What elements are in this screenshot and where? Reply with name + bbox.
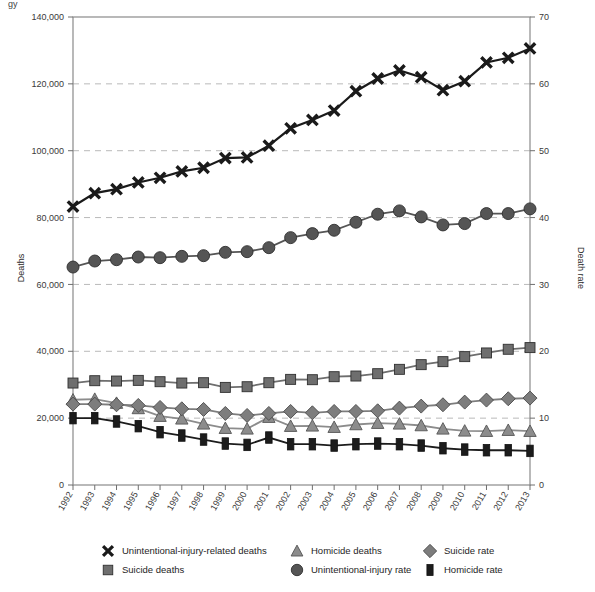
square-marker-icon xyxy=(90,376,100,386)
square-marker-icon xyxy=(177,378,187,388)
circle-marker-icon xyxy=(502,208,514,220)
square-marker-icon xyxy=(460,352,470,362)
circle-marker-icon xyxy=(111,254,123,266)
circle-marker-icon xyxy=(328,224,340,236)
circle-marker-icon xyxy=(154,252,166,264)
clipped-figure-title: gy xyxy=(8,0,18,9)
bar-marker-icon xyxy=(92,412,99,424)
square-marker-icon xyxy=(133,375,143,385)
square-marker-icon xyxy=(416,360,426,370)
bar-marker-icon xyxy=(331,440,338,452)
right-axis-tick-label: 30 xyxy=(539,280,549,290)
circle-marker-icon xyxy=(219,246,231,258)
circle-marker-icon xyxy=(198,250,210,262)
square-marker-icon xyxy=(242,382,252,392)
circle-marker-icon xyxy=(176,250,188,262)
bar-marker-icon xyxy=(461,444,468,456)
left-axis-tick-label: 20,000 xyxy=(36,413,64,423)
bar-marker-icon xyxy=(374,438,381,450)
bar-marker-icon xyxy=(200,434,207,446)
square-marker-icon xyxy=(68,378,78,388)
right-axis-tick-label: 70 xyxy=(539,12,549,22)
square-marker-icon xyxy=(438,357,448,367)
right-axis-title: Death rate xyxy=(576,247,586,289)
circle-marker-icon xyxy=(291,564,302,575)
square-marker-icon xyxy=(155,377,165,387)
circle-marker-icon xyxy=(393,205,405,217)
bar-marker-icon xyxy=(309,438,316,450)
circle-marker-icon xyxy=(372,208,384,220)
bar-marker-icon xyxy=(135,420,142,432)
right-axis-tick-label: 10 xyxy=(539,413,549,423)
legend-item-label: Homicide rate xyxy=(444,564,503,575)
left-axis-tick-label: 60,000 xyxy=(36,280,64,290)
right-axis-tick-label: 0 xyxy=(539,480,544,490)
circle-marker-icon xyxy=(89,255,101,267)
legend-item-label: Homicide deaths xyxy=(311,545,382,556)
circle-marker-icon xyxy=(241,246,253,258)
left-axis-title: Deaths xyxy=(16,253,26,282)
circle-marker-icon xyxy=(437,219,449,231)
line-chart: gy 020,00040,00060,00080,000100,000120,0… xyxy=(0,0,595,592)
left-axis-tick-label: 120,000 xyxy=(31,79,64,89)
right-axis-tick-label: 20 xyxy=(539,346,549,356)
left-axis-tick-label: 80,000 xyxy=(36,213,64,223)
square-marker-icon xyxy=(112,376,122,386)
bar-marker-icon xyxy=(440,442,447,454)
square-marker-icon xyxy=(481,348,491,358)
square-marker-icon xyxy=(103,565,113,575)
circle-marker-icon xyxy=(306,228,318,240)
square-marker-icon xyxy=(394,364,404,374)
bar-marker-icon xyxy=(418,440,425,452)
bar-marker-icon xyxy=(266,432,273,444)
left-axis-tick-label: 0 xyxy=(59,480,64,490)
bar-marker-icon xyxy=(527,445,534,457)
left-axis-tick-label: 100,000 xyxy=(31,146,64,156)
legend-item-label: Unintentional-injury rate xyxy=(311,564,411,575)
bar-marker-icon xyxy=(113,416,120,428)
bar-marker-icon xyxy=(353,438,360,450)
circle-marker-icon xyxy=(132,251,144,263)
square-marker-icon xyxy=(525,343,535,353)
circle-marker-icon xyxy=(350,216,362,228)
figure-container: gy 020,00040,00060,00080,000100,000120,0… xyxy=(0,0,595,592)
bar-marker-icon xyxy=(157,426,164,438)
circle-marker-icon xyxy=(524,203,536,215)
square-marker-icon xyxy=(264,378,274,388)
square-marker-icon xyxy=(286,374,296,384)
circle-marker-icon xyxy=(263,242,275,254)
square-marker-icon xyxy=(351,371,361,381)
square-marker-icon xyxy=(373,369,383,379)
bar-marker-icon xyxy=(287,438,294,450)
bar-marker-icon xyxy=(70,412,77,424)
circle-marker-icon xyxy=(459,218,471,230)
left-axis-tick-label: 40,000 xyxy=(36,346,64,356)
square-marker-icon xyxy=(220,382,230,392)
right-axis-tick-label: 60 xyxy=(539,79,549,89)
bar-marker-icon xyxy=(396,438,403,450)
bar-marker-icon xyxy=(179,430,186,442)
square-marker-icon xyxy=(199,378,209,388)
bar-marker-icon xyxy=(222,438,229,450)
bar-marker-icon xyxy=(483,444,490,456)
left-axis-tick-label: 140,000 xyxy=(31,12,64,22)
bar-marker-icon xyxy=(505,444,512,456)
right-axis-tick-label: 50 xyxy=(539,146,549,156)
legend-item[interactable]: Unintentional-injury-related deaths xyxy=(103,545,267,556)
square-marker-icon xyxy=(503,344,513,354)
legend-item-label: Suicide deaths xyxy=(122,564,185,575)
legend-item-label: Unintentional-injury-related deaths xyxy=(122,545,267,556)
bar-marker-icon xyxy=(244,439,251,451)
circle-marker-icon xyxy=(415,211,427,223)
square-marker-icon xyxy=(329,372,339,382)
bar-marker-icon xyxy=(427,565,433,576)
right-axis-tick-label: 40 xyxy=(539,213,549,223)
square-marker-icon xyxy=(307,375,317,385)
circle-marker-icon xyxy=(480,208,492,220)
circle-marker-icon xyxy=(67,261,79,273)
legend-item-label: Suicide rate xyxy=(444,545,494,556)
circle-marker-icon xyxy=(285,232,297,244)
